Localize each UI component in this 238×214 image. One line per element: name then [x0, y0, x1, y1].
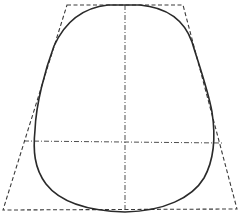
diagram-canvas [0, 0, 238, 214]
